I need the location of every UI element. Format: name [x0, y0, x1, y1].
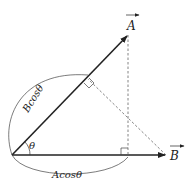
theta-label: θ	[29, 140, 35, 151]
acos-label: Acosθ	[51, 169, 82, 180]
bcos-label: Bcosθ	[20, 83, 46, 115]
right-angle-marker-b	[121, 148, 128, 155]
bcos-brace-arc	[9, 75, 88, 155]
vector-b-label: B	[169, 149, 179, 163]
dashed-perpendicular-b	[88, 79, 166, 155]
vector-a-label: A	[126, 19, 136, 33]
vector-projection-diagram: A B θ Bcosθ Acosθ	[0, 0, 194, 192]
